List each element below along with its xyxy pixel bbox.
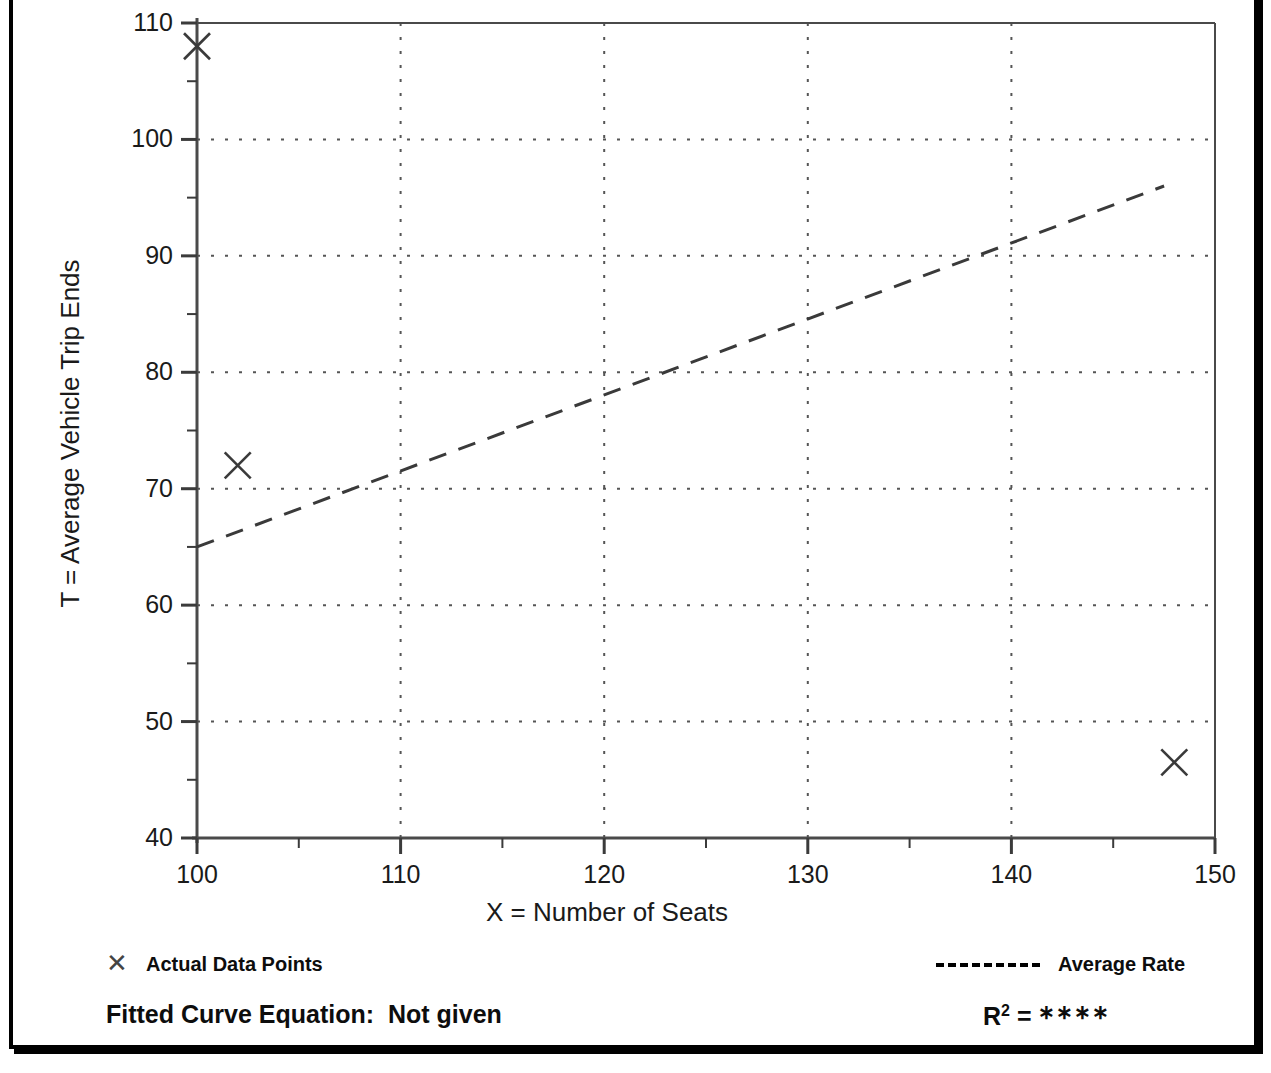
- x-tick-label-100: 100: [152, 860, 242, 889]
- fitted-curve-equation-label: Fitted Curve Equation:: [106, 1000, 374, 1028]
- r-squared-equals: =: [1017, 1002, 1032, 1030]
- legend-dashed-line-icon: [936, 963, 1040, 967]
- r-squared-value: R2 = ∗∗∗∗: [983, 1000, 1110, 1031]
- legend-actual-data-points-label: Actual Data Points: [146, 953, 323, 976]
- x-axis-title: X = Number of Seats: [397, 897, 817, 928]
- y-tick-label-100: 100: [103, 124, 173, 153]
- plot-area-background: [197, 23, 1215, 838]
- y-tick-label-80: 80: [103, 357, 173, 386]
- r-squared-symbol: R: [983, 1002, 1001, 1030]
- y-tick-label-70: 70: [103, 474, 173, 503]
- y-axis-ticks: [181, 23, 197, 838]
- legend-average-rate-label: Average Rate: [1058, 953, 1185, 976]
- x-tick-label-110: 110: [356, 860, 446, 889]
- legend-marker-x-icon: ✕: [106, 950, 128, 976]
- y-axis-title: T = Average Vehicle Trip Ends: [55, 204, 86, 664]
- x-tick-label-130: 130: [763, 860, 853, 889]
- y-tick-label-60: 60: [103, 590, 173, 619]
- y-tick-label-90: 90: [103, 241, 173, 270]
- y-tick-label-110: 110: [103, 8, 173, 37]
- y-tick-label-40: 40: [103, 823, 173, 852]
- x-tick-label-120: 120: [559, 860, 649, 889]
- fitted-curve-equation-value: Not given: [388, 1000, 502, 1028]
- x-axis-ticks: [197, 838, 1215, 854]
- x-tick-label-150: 150: [1170, 860, 1260, 889]
- y-tick-label-50: 50: [103, 707, 173, 736]
- chart-page: 405060708090100110 100110120130140150 T …: [0, 0, 1271, 1073]
- r-squared-stars: ∗∗∗∗: [1038, 1001, 1110, 1023]
- fitted-curve-equation: Fitted Curve Equation: Not given: [106, 1000, 502, 1029]
- x-tick-label-140: 140: [966, 860, 1056, 889]
- r-squared-exponent: 2: [1001, 1002, 1010, 1019]
